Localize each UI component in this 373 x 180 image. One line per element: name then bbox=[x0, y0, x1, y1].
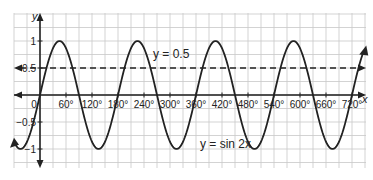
sine-chart: 060°120°180°240°300°360°420°480°540°600°… bbox=[0, 0, 373, 180]
x-tick-label: 600° bbox=[290, 99, 311, 110]
x-tick-label: 720° bbox=[342, 99, 363, 110]
x-tick-label: 480° bbox=[238, 99, 259, 110]
x-tick-label: 120° bbox=[82, 99, 103, 110]
y-tick-label: 1 bbox=[30, 36, 36, 47]
dashed-line-label: y = 0.5 bbox=[153, 47, 190, 61]
y-tick-label: −1 bbox=[25, 144, 37, 155]
x-tick-label: 360° bbox=[186, 99, 207, 110]
x-tick-label: 540° bbox=[264, 99, 285, 110]
curve-label: y = sin 2x bbox=[200, 137, 251, 151]
x-tick-label: 420° bbox=[212, 99, 233, 110]
x-axis-label: x bbox=[361, 93, 368, 105]
x-tick-label: 660° bbox=[316, 99, 337, 110]
x-tick-label: 240° bbox=[134, 99, 155, 110]
grid bbox=[14, 13, 366, 168]
x-tick-label: 300° bbox=[160, 99, 181, 110]
x-tick-label: 60° bbox=[58, 99, 73, 110]
x-tick-label: 180° bbox=[108, 99, 129, 110]
